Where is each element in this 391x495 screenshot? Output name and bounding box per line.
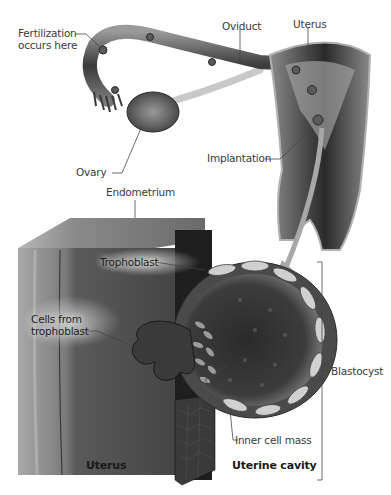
label-cells-from-trophoblast: Cells from trophoblast (31, 313, 89, 337)
label-fertilization-line1: Fertilization (18, 27, 77, 39)
fertilization-implantation-diagram: Fertilization occurs here Oviduct Uterus… (0, 0, 391, 495)
label-oviduct: Oviduct (222, 20, 261, 32)
label-fertilization-line2: occurs here (18, 39, 77, 51)
label-ovary: Ovary (76, 166, 106, 178)
label-fertilization: Fertilization occurs here (18, 27, 77, 51)
diagram-illustration (0, 0, 391, 495)
label-uterus-bottom: Uterus (86, 460, 126, 472)
label-cells-line2: trophoblast (31, 325, 89, 337)
label-implantation: Implantation (207, 152, 271, 164)
label-inner-cell-mass: Inner cell mass (235, 434, 312, 446)
label-blastocyst: Blastocyst (331, 365, 383, 377)
textured-cut-face (175, 395, 215, 485)
label-uterus-top: Uterus (293, 18, 327, 30)
ovary-shape (127, 92, 179, 132)
label-endometrium: Endometrium (106, 186, 175, 198)
label-cells-line1: Cells from (31, 313, 89, 325)
oviduct-tube (90, 32, 300, 100)
label-uterine-cavity: Uterine cavity (232, 460, 316, 472)
label-trophoblast: Trophoblast (100, 256, 159, 268)
